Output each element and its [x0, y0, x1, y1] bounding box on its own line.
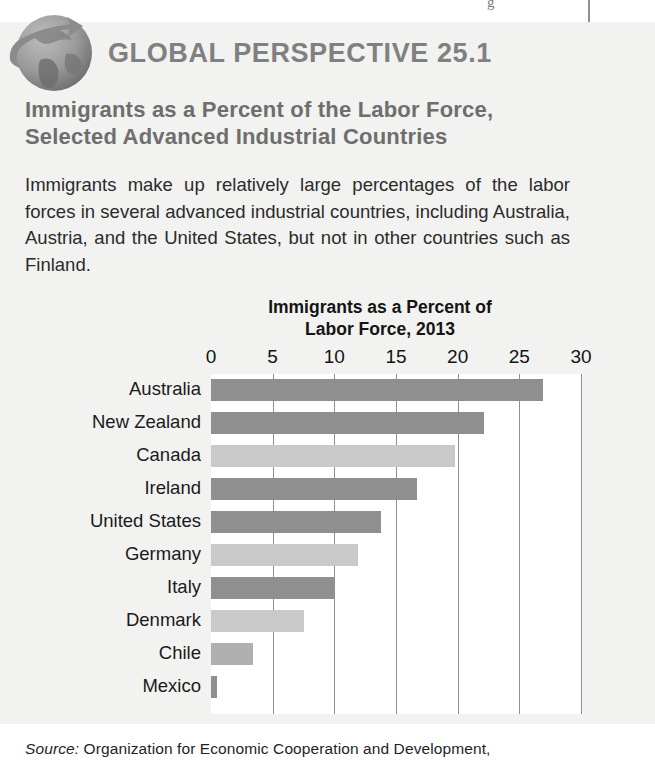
- feature-title: Immigrants as a Percent of the Labor For…: [25, 96, 585, 150]
- source-label: Source:: [25, 740, 79, 757]
- x-tick-label-30: 30: [570, 346, 591, 368]
- bar-denmark: [211, 610, 304, 632]
- bar-row: United States: [211, 506, 581, 539]
- bar-row: Mexico: [211, 671, 581, 704]
- category-label-mexico: Mexico: [142, 675, 201, 697]
- gridline-30: [581, 374, 582, 714]
- category-label-ireland: Ireland: [144, 477, 201, 499]
- x-tick-label-20: 20: [447, 346, 468, 368]
- chart-title: Immigrants as a Percent of Labor Force, …: [170, 296, 590, 340]
- x-tick-label-15: 15: [385, 346, 406, 368]
- bar-italy: [211, 577, 334, 599]
- x-tick-label-0: 0: [206, 346, 217, 368]
- bar-row: Chile: [211, 638, 581, 671]
- bar-row: Australia: [211, 374, 581, 407]
- category-label-chile: Chile: [159, 642, 201, 664]
- bar-row: Germany: [211, 539, 581, 572]
- x-tick-label-25: 25: [509, 346, 530, 368]
- category-label-canada: Canada: [136, 444, 201, 466]
- bar-canada: [211, 445, 455, 467]
- feature-header-label: GLOBAL PERSPECTIVE 25.1: [108, 38, 492, 69]
- bar-row: New Zealand: [211, 407, 581, 440]
- immigrants-bar-chart: Immigrants as a Percent of Labor Force, …: [0, 296, 655, 726]
- bar-row: Ireland: [211, 473, 581, 506]
- x-tick-label-10: 10: [324, 346, 345, 368]
- category-label-united-states: United States: [90, 510, 201, 532]
- category-label-australia: Australia: [129, 378, 201, 400]
- bar-united-states: [211, 511, 381, 533]
- bar-row: Denmark: [211, 605, 581, 638]
- page-edge-glyph: g: [487, 0, 495, 11]
- category-label-denmark: Denmark: [126, 609, 201, 631]
- bar-rows: AustraliaNew ZealandCanadaIrelandUnited …: [211, 374, 581, 714]
- feature-body-text: Immigrants make up relatively large perc…: [25, 172, 570, 278]
- category-label-germany: Germany: [125, 543, 201, 565]
- bar-new-zealand: [211, 412, 484, 434]
- chart-title-line2: Labor Force, 2013: [305, 319, 455, 339]
- bar-ireland: [211, 478, 417, 500]
- plot-area: AustraliaNew ZealandCanadaIrelandUnited …: [211, 374, 581, 714]
- page-edge-rule: [588, 0, 590, 22]
- bar-germany: [211, 544, 358, 566]
- chart-source: Source: Organization for Economic Cooper…: [25, 740, 645, 758]
- bar-australia: [211, 379, 543, 401]
- bar-mexico: [211, 676, 217, 698]
- x-axis-tick-labels: 051015202530: [0, 346, 655, 372]
- globe-with-arrow-icon: [8, 8, 100, 96]
- category-label-italy: Italy: [167, 576, 201, 598]
- x-tick-label-5: 5: [267, 346, 278, 368]
- bar-chile: [211, 643, 253, 665]
- bar-row: Italy: [211, 572, 581, 605]
- source-text: Organization for Economic Cooperation an…: [84, 740, 491, 757]
- category-label-new-zealand: New Zealand: [92, 411, 201, 433]
- bar-row: Canada: [211, 440, 581, 473]
- chart-title-line1: Immigrants as a Percent of: [268, 297, 492, 317]
